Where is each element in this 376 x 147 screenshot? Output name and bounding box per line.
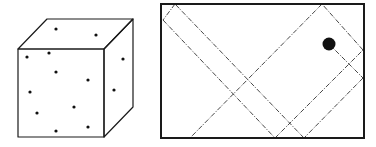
billiard-box [161, 4, 364, 138]
particle-dot [47, 51, 50, 54]
particle-dot [121, 57, 124, 60]
particle-dot [35, 111, 38, 114]
diagram-svg [0, 0, 376, 147]
trajectory-line [329, 44, 363, 78]
particle-dot [28, 90, 31, 93]
trajectory-line [304, 78, 363, 138]
particle-dot [54, 70, 57, 73]
box-boundary [161, 4, 364, 138]
cube-with-particles [18, 19, 133, 137]
particle-dot [54, 129, 57, 132]
particle-dot [94, 33, 97, 36]
ball [323, 38, 336, 51]
trajectory-line [275, 50, 363, 138]
particle-dot [86, 78, 89, 81]
particle-dot [112, 88, 115, 91]
particle-dot [86, 125, 89, 128]
cube-side-face [104, 19, 133, 137]
particle-dot [72, 105, 75, 108]
trajectory-line [175, 4, 304, 138]
trajectory-line [163, 4, 175, 20]
particle-dot [54, 27, 57, 30]
particle-dot [25, 55, 28, 58]
trajectory-line [163, 20, 275, 138]
figure-canvas [0, 0, 376, 147]
cube-top-face [18, 19, 133, 49]
